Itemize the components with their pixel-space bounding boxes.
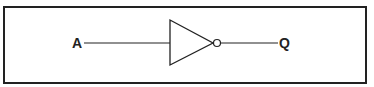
- frame-border: [4, 7, 366, 83]
- input-label: A: [72, 35, 82, 51]
- not-gate-diagram: A Q: [0, 0, 374, 87]
- inversion-bubble: [214, 40, 221, 47]
- inverter-triangle: [170, 20, 213, 65]
- output-label: Q: [279, 35, 290, 51]
